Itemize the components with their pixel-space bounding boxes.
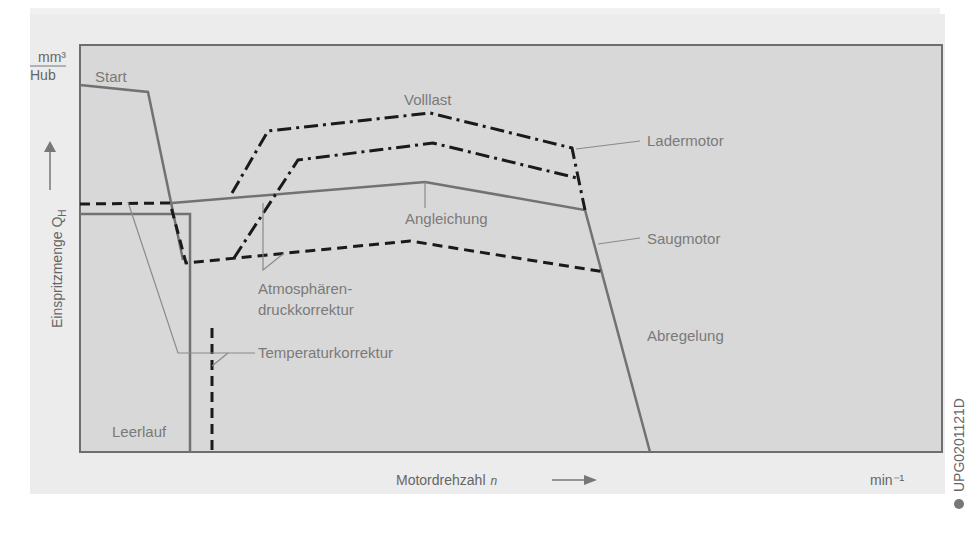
x-axis-label: Motordrehzahln [396, 472, 498, 488]
y-axis-label-group: Einspritzmenge QH [49, 209, 68, 328]
label-saugmotor: Saugmotor [647, 230, 720, 247]
y-unit-numerator: mm³ [38, 49, 66, 65]
label-atmosphaeren: Atmosphären- [258, 280, 352, 297]
image-code-group: UPG0201121D [951, 398, 967, 509]
copyright-icon [954, 499, 964, 509]
label-angleichung: Angleichung [405, 210, 488, 227]
y-axis-arrow-icon [44, 141, 56, 152]
injection-quantity-chart: mm³ Hub Einspritzmenge QH Start Volllast… [0, 0, 970, 539]
image-code: UPG0201121D [951, 398, 967, 492]
label-ladermotor: Ladermotor [647, 132, 724, 149]
label-start: Start [95, 68, 128, 85]
plot-area [80, 45, 942, 452]
label-druckkorrektur: druckkorrektur [258, 301, 354, 318]
label-leerlauf: Leerlauf [112, 423, 167, 440]
label-volllast: Volllast [404, 91, 452, 108]
label-abregelung: Abregelung [647, 327, 724, 344]
label-temperaturkorrektur: Temperaturkorrektur [258, 344, 393, 361]
x-unit: min⁻¹ [870, 472, 905, 488]
x-axis-arrow-icon [584, 475, 597, 485]
y-axis-label: Einspritzmenge QH [49, 209, 68, 328]
y-unit-denominator: Hub [30, 67, 56, 83]
